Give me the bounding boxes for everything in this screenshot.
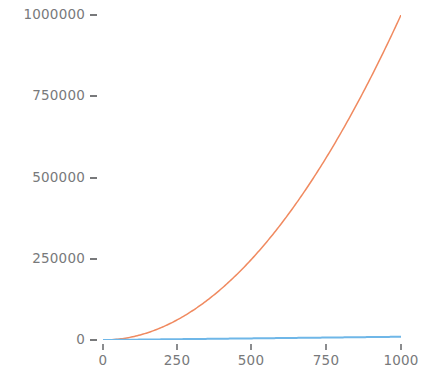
plot-canvas xyxy=(103,15,401,340)
x-tick-mark xyxy=(250,344,252,350)
y-tick-label: 0 xyxy=(76,333,85,347)
x-tick-mark xyxy=(325,344,327,350)
x-tick-label: 500 xyxy=(238,354,264,368)
y-tick-mark xyxy=(90,177,97,179)
x-tick-mark xyxy=(176,344,178,350)
x-tick-label: 250 xyxy=(164,354,190,368)
x-tick-label: 750 xyxy=(313,354,339,368)
y-tick-label: 250000 xyxy=(32,252,85,266)
plot-area xyxy=(103,15,401,340)
x-tick-label: 0 xyxy=(99,354,108,368)
y-tick-mark xyxy=(90,14,97,16)
y-tick-mark xyxy=(90,258,97,260)
y-tick-mark xyxy=(90,95,97,97)
x-tick-mark xyxy=(102,344,104,350)
y-tick-label: 500000 xyxy=(32,171,85,185)
x-tick-mark xyxy=(400,344,402,350)
y-tick-label: 750000 xyxy=(32,89,85,103)
y-tick-mark xyxy=(90,339,97,341)
chart-figure: 1000000 750000 500000 250000 0 0 250 xyxy=(0,0,436,382)
series-line-quadratic xyxy=(103,15,401,340)
series-line-linear xyxy=(103,337,401,340)
y-tick-label: 1000000 xyxy=(23,8,85,22)
x-tick-label: 1000 xyxy=(383,354,418,368)
